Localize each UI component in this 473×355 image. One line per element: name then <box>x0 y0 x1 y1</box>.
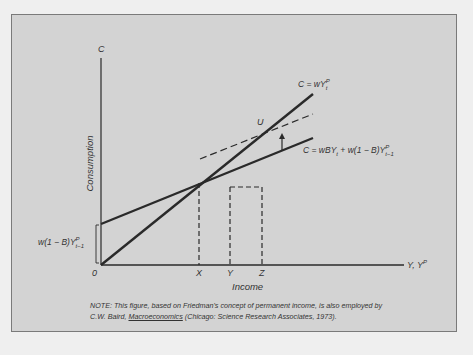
note-citation-publisher: (Chicago: Science Research Associates, 1… <box>183 312 337 321</box>
figure-note: NOTE: This figure, based on Friedman's c… <box>90 300 382 322</box>
short-run-line-label: C = wBYt + w(1 − B)YPt−1 <box>303 144 394 157</box>
note-line-1: NOTE: This figure, based on Friedman's c… <box>90 300 382 311</box>
y-axis-label: Consumption <box>84 119 95 209</box>
shift-arrow-head <box>279 133 285 139</box>
note-citation-title: Macroeconomics <box>128 312 182 321</box>
short-run-label-sub2: t−1 <box>385 151 394 157</box>
point-u-label: U <box>257 117 264 127</box>
y-axis-symbol: C <box>98 44 105 54</box>
x-tick-x: X <box>196 268 202 278</box>
intercept-label: w(1 − B)YPt−1 <box>38 236 84 249</box>
long-run-label-main: C = wY <box>298 79 326 89</box>
long-run-line-label: C = wYPt <box>298 78 327 91</box>
long-run-label-sup: P <box>326 78 330 84</box>
x-axis-label: Income <box>232 281 263 292</box>
note-citation-author: C.W. Baird, <box>90 312 128 321</box>
x-axis-symbol-main: Y, Y <box>407 260 423 270</box>
intercept-label-main: w(1 − B)Y <box>38 237 76 247</box>
short-run-label-main: C = wBY <box>303 145 336 155</box>
long-run-consumption-line <box>101 94 313 265</box>
origin-label: 0 <box>92 268 97 278</box>
short-run-consumption-line <box>101 138 313 224</box>
intercept-bracket <box>96 225 99 263</box>
x-axis-symbol: Y, YP <box>407 259 427 270</box>
short-run-label-sup: P <box>385 144 389 150</box>
x-tick-y: Y <box>227 268 233 278</box>
intercept-label-sup: P <box>76 236 80 242</box>
x-axis-symbol-sup: P <box>423 259 427 265</box>
short-run-label-mid: + w(1 − B)Y <box>338 145 385 155</box>
x-tick-z: Z <box>259 268 265 278</box>
note-line-2: C.W. Baird, Macroeconomics (Chicago: Sci… <box>90 311 382 322</box>
intercept-label-sub: t−1 <box>76 243 85 249</box>
long-run-label-sub: t <box>326 85 328 91</box>
